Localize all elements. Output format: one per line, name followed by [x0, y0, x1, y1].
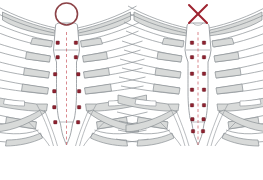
marker-dot — [202, 72, 205, 75]
marker-dot — [74, 56, 77, 59]
marker-dot — [53, 106, 56, 109]
marker-dot — [191, 118, 194, 121]
marker-dot — [53, 73, 56, 76]
ribcage-incorrect — [116, 6, 263, 146]
marker-dot — [77, 106, 80, 109]
marker-dot — [202, 41, 205, 44]
marker-dot — [202, 118, 205, 121]
anatomical-figure-container — [0, 0, 263, 180]
marker-dot — [54, 121, 57, 124]
marker-dot — [190, 88, 193, 91]
marker-dot — [191, 130, 194, 133]
marker-dot — [76, 121, 79, 124]
marker-dot — [56, 41, 59, 44]
marker-dot — [202, 104, 205, 107]
marker-dot — [190, 72, 193, 75]
marker-dot — [202, 56, 205, 59]
anatomy-illustration — [0, 0, 263, 180]
panel-incorrect[interactable] — [116, 5, 263, 146]
verdict-cross-icon — [189, 5, 207, 23]
marker-dot — [202, 88, 205, 91]
marker-dot — [77, 73, 80, 76]
marker-dot — [190, 56, 193, 59]
marker-dot — [56, 56, 59, 59]
marker-dot — [74, 41, 77, 44]
marker-dot — [77, 90, 80, 93]
marker-dot — [201, 130, 204, 133]
marker-dot — [190, 41, 193, 44]
verdict-circle-icon — [56, 3, 78, 25]
marker-dot — [190, 104, 193, 107]
panel-correct[interactable] — [0, 3, 149, 146]
marker-dot — [53, 90, 56, 93]
